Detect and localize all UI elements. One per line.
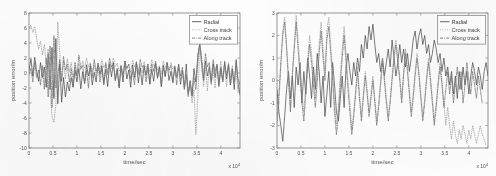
y-tick-label: 2 [272, 32, 275, 38]
y-tick-label: -6 [22, 115, 27, 121]
y-tick-label: 8 [24, 10, 27, 16]
x-tick-label: 0.5 [50, 150, 57, 156]
x-axis-title: time/sec [123, 159, 145, 165]
x-tick-label: 3 [171, 150, 174, 156]
x-tick-label: 2.5 [393, 150, 400, 156]
y-tick-label: -3 [270, 145, 275, 151]
x-tick-label: 2.5 [145, 150, 152, 156]
y-tick-label: 3 [272, 10, 275, 16]
legend-label-radial: Radial [452, 19, 468, 25]
y-tick-label: -1 [270, 100, 275, 106]
legend-label-cross-track: Cross track [452, 27, 480, 33]
legend-label-along-track: Along track [204, 35, 232, 41]
y-tick-label: 0 [24, 70, 27, 76]
x-tick-label: 3.5 [441, 150, 448, 156]
x-tick-label: 1 [76, 150, 79, 156]
plot-panel-left: 00.511.522.533.5486420-2-4-6-8-10time/se… [0, 0, 248, 176]
x-tick-label: 1.5 [97, 150, 104, 156]
legend-label-radial: Radial [204, 19, 220, 25]
x-tick-label: 1 [324, 150, 327, 156]
y-axis-title: position error/m [10, 60, 16, 102]
legend-label-cross-track: Cross track [204, 27, 232, 33]
x-tick-label: 2 [372, 150, 375, 156]
x-tick-label: 3 [419, 150, 422, 156]
y-tick-label: 0 [272, 77, 275, 83]
x-tick-label: 0.5 [298, 150, 305, 156]
legend-label-along-track: Along track [452, 35, 480, 41]
y-tick-label: 1 [272, 55, 275, 61]
x-tick-label: 0 [28, 150, 31, 156]
y-axis-title: position error/m [258, 60, 264, 102]
x-tick-label: 4 [219, 150, 222, 156]
y-tick-label: -2 [22, 85, 27, 91]
y-tick-label: 4 [24, 40, 27, 46]
x-tick-label: 4 [467, 150, 470, 156]
y-tick-label: -2 [270, 122, 275, 128]
y-tick-label: -4 [22, 100, 27, 106]
figure-root: 00.511.522.533.5486420-2-4-6-8-10time/se… [0, 0, 496, 176]
x-axis-exponent: x 104 [228, 163, 240, 169]
y-tick-label: -10 [20, 145, 27, 151]
x-tick-label: 3.5 [193, 150, 200, 156]
x-axis-title: time/sec [371, 159, 393, 165]
y-tick-label: 6 [24, 25, 27, 31]
x-tick-label: 2 [124, 150, 127, 156]
plot-area-right: 00.511.522.533.543210-1-2-3time/secposit… [258, 10, 488, 169]
x-axis-exponent: x 104 [476, 163, 488, 169]
y-tick-label: -8 [22, 130, 27, 136]
plot-svg-left: 00.511.522.533.5486420-2-4-6-8-10time/se… [0, 0, 248, 176]
y-tick-label: 2 [24, 55, 27, 61]
x-tick-label: 0 [276, 150, 279, 156]
plot-area-left: 00.511.522.533.5486420-2-4-6-8-10time/se… [10, 10, 240, 169]
plot-panel-right: 00.511.522.533.543210-1-2-3time/secposit… [248, 0, 496, 176]
plot-svg-right: 00.511.522.533.543210-1-2-3time/secposit… [248, 0, 496, 176]
x-tick-label: 1.5 [345, 150, 352, 156]
